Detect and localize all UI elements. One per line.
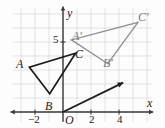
axis-label-y-axis: y — [67, 7, 72, 19]
vertex-label-B: B — [45, 100, 52, 112]
vertex-label-B-prime: B′ — [103, 57, 113, 69]
axis-label-x-axis: x — [147, 97, 152, 109]
vertex-label-C: C — [75, 48, 83, 60]
figure-canvas: ABCA′B′C′yxO5−224 — [0, 0, 165, 128]
axis-label-origin: O — [65, 114, 74, 126]
axis-label-x-neg2: −2 — [28, 114, 40, 125]
translation-vector-arrow — [63, 83, 123, 112]
grid-lines — [13, 8, 152, 121]
axis-label-x-2: 2 — [89, 114, 95, 125]
vertex-label-A-prime: A′ — [72, 30, 82, 42]
axis-label-y-5: 5 — [53, 34, 59, 45]
vertex-label-A: A — [16, 58, 23, 70]
vertex-label-C-prime: C′ — [138, 11, 149, 23]
triangle-ABC — [29, 53, 75, 94]
axis-label-x-4: 4 — [117, 114, 123, 125]
